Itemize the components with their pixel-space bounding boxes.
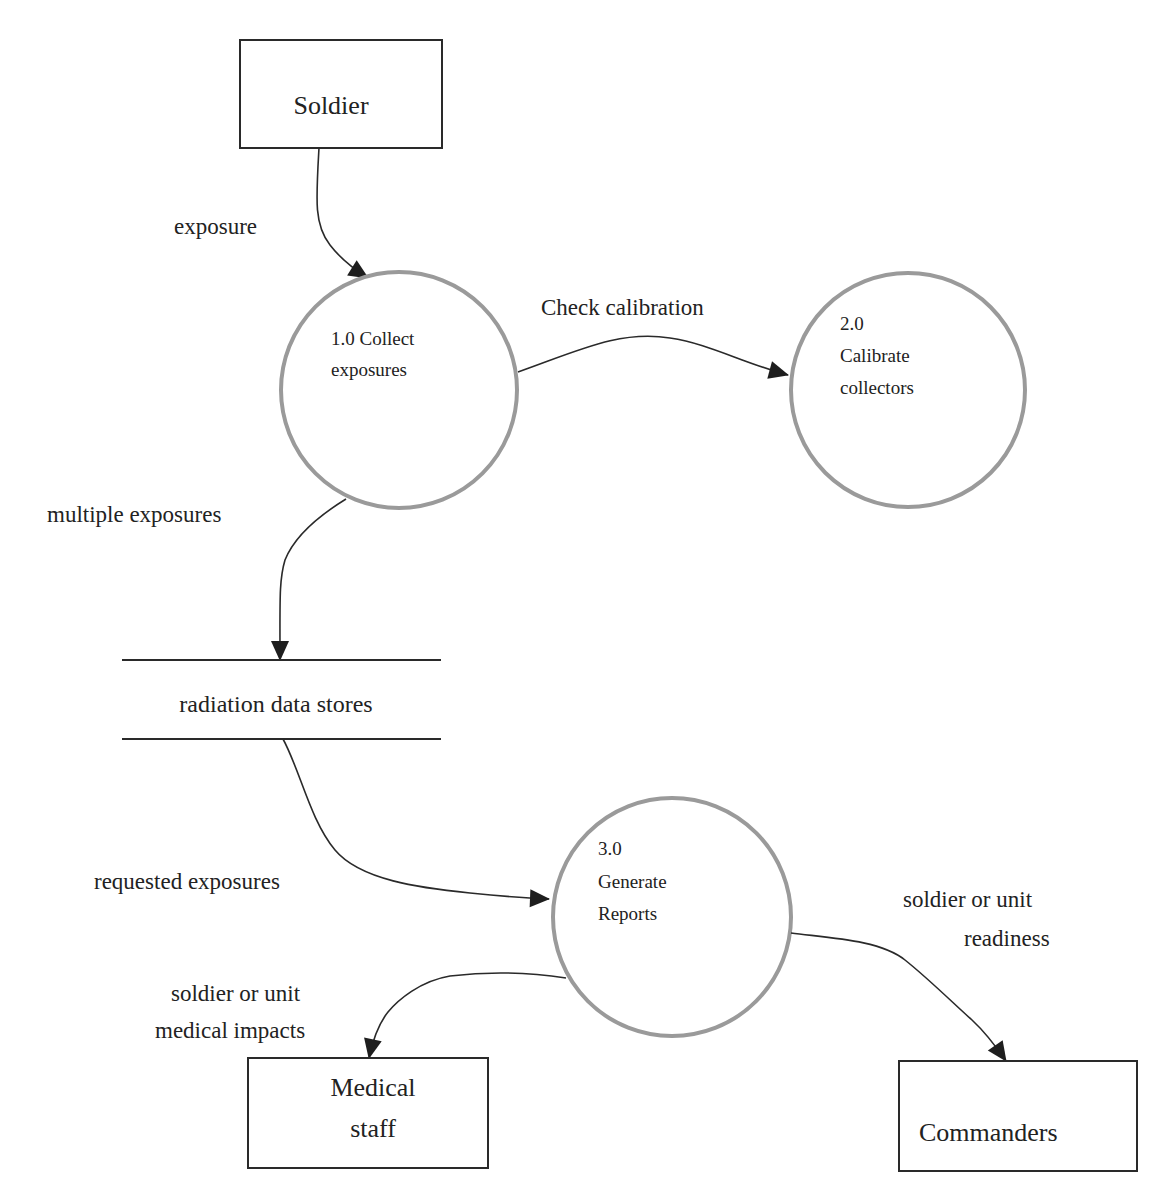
process-3-line3: Reports (598, 903, 657, 924)
entity-medical-staff-label-line2: staff (350, 1114, 396, 1143)
flow-medical-impacts-label-line2: medical impacts (155, 1018, 305, 1043)
flow-readiness-label-line2: readiness (964, 926, 1050, 951)
process-collect-exposures[interactable]: 1.0 Collect exposures (281, 272, 517, 508)
flow-exposure-label: exposure (174, 214, 257, 239)
flow-check-calibration-label: Check calibration (541, 295, 704, 320)
data-store-label: radiation data stores (179, 691, 372, 717)
entity-commanders[interactable]: Commanders (899, 1061, 1137, 1171)
process-generate-reports[interactable]: 3.0 Generate Reports (553, 798, 791, 1036)
flow-multiple-exposures-label: multiple exposures (47, 502, 221, 527)
flow-medical-impacts-label-line1: soldier or unit (171, 981, 301, 1006)
process-circle (553, 798, 791, 1036)
entity-commanders-label: Commanders (919, 1118, 1058, 1147)
process-1-line1: 1.0 Collect (331, 328, 415, 349)
process-3-line1: 3.0 (598, 838, 622, 859)
entity-soldier[interactable]: Soldier (240, 40, 442, 148)
flow-readiness-label-line1: soldier or unit (903, 887, 1033, 912)
entity-commanders-box (899, 1061, 1137, 1171)
process-2-line1: 2.0 (840, 313, 864, 334)
process-circle (281, 272, 517, 508)
process-2-line3: collectors (840, 377, 914, 398)
entity-medical-staff-label-line1: Medical (330, 1073, 415, 1102)
data-flow-diagram: Soldier exposure 1.0 Collect exposures C… (0, 0, 1176, 1201)
entity-soldier-label: Soldier (293, 91, 368, 120)
process-calibrate-collectors[interactable]: 2.0 Calibrate collectors (791, 273, 1025, 507)
process-1-line2: exposures (331, 359, 407, 380)
entity-medical-staff[interactable]: Medical staff (248, 1058, 488, 1168)
process-3-line2: Generate (598, 871, 667, 892)
process-2-line2: Calibrate (840, 345, 910, 366)
flow-requested-exposures-label: requested exposures (94, 869, 280, 894)
